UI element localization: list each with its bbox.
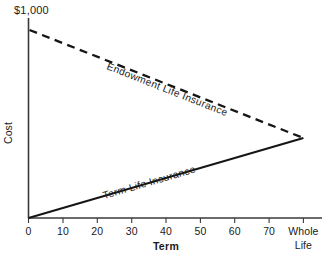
series-label-endowment-life-insurance: Endowment Life Insurance [105,61,229,119]
x-end-label-life: Life [295,239,312,251]
x-axis-title: Term [153,240,179,252]
insurance-cost-chart: $1,000 Cost 0 10 20 30 40 50 60 70 Whole… [0,0,328,257]
x-tick-label-30: 30 [126,225,138,237]
x-tick-label-60: 60 [229,225,241,237]
x-end-label-whole: Whole [288,225,318,237]
x-tick-label-0: 0 [26,225,32,237]
x-tick-label-50: 50 [194,225,206,237]
x-tick-label-20: 20 [91,225,103,237]
series-label-term-life-insurance: Term Life Insurance [101,164,196,201]
y-axis-max-label: $1,000 [14,4,49,16]
x-tick-label-70: 70 [263,225,275,237]
x-tick-label-10: 10 [57,225,69,237]
x-tick-label-40: 40 [160,225,172,237]
y-axis-title: Cost [2,122,14,144]
chart-plot-area: $1,000 Cost 0 10 20 30 40 50 60 70 Whole… [0,0,328,257]
